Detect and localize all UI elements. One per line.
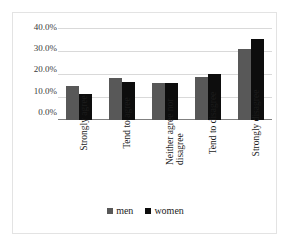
x-axis-tick-label: Strongly disagree bbox=[251, 90, 261, 157]
x-axis-category-cell: Neither agree nor disagree bbox=[144, 121, 187, 207]
bar-men bbox=[195, 77, 208, 120]
y-axis-tick-label: 40.0% bbox=[15, 23, 57, 32]
bar-men bbox=[238, 49, 251, 120]
x-axis-tick-label: Tend to disagree bbox=[208, 92, 218, 155]
legend-item-men: men bbox=[107, 206, 133, 216]
y-axis-tick-label: 20.0% bbox=[15, 65, 57, 74]
x-axis-tick-label: Strongly agree bbox=[79, 95, 89, 151]
legend-swatch-icon bbox=[107, 208, 113, 214]
x-axis-category-labels: Strongly agree Tend to agree Neither agr… bbox=[58, 121, 272, 207]
x-axis-category-cell: Strongly agree bbox=[58, 121, 101, 207]
x-axis-category-cell: Tend to disagree bbox=[186, 121, 229, 207]
chart-plot-wrapper: 40.0% 30.0% 20.0% 10.0% 0.0% bbox=[13, 13, 278, 235]
y-axis: 40.0% 30.0% 20.0% 10.0% 0.0% bbox=[15, 23, 57, 119]
y-axis-tick-label: 0.0% bbox=[15, 108, 57, 117]
bar-men bbox=[66, 86, 79, 120]
legend-item-women: women bbox=[145, 206, 183, 216]
bar-men bbox=[109, 78, 122, 120]
legend-swatch-icon bbox=[145, 208, 151, 214]
x-axis-category-cell: Tend to agree bbox=[101, 121, 144, 207]
legend-label: women bbox=[154, 206, 183, 216]
chart-legend: men women bbox=[13, 206, 278, 216]
bar-men bbox=[152, 83, 165, 120]
y-axis-tick-label: 10.0% bbox=[15, 87, 57, 96]
legend-label: men bbox=[116, 206, 133, 216]
x-axis-tick-label: Tend to agree bbox=[122, 97, 132, 149]
x-axis-tick-label: Neither agree nor disagree bbox=[165, 81, 185, 165]
y-axis-tick-label: 30.0% bbox=[15, 44, 57, 53]
x-axis-category-cell: Strongly disagree bbox=[229, 121, 272, 207]
chart-frame: 40.0% 30.0% 20.0% 10.0% 0.0% bbox=[12, 12, 277, 234]
